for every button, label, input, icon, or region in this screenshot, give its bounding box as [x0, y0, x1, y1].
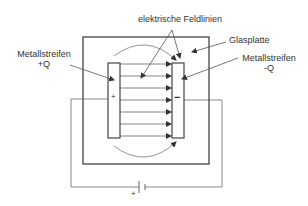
right-strip-label: Metallstreifen -Q: [240, 53, 298, 73]
fringe-field-lines: [114, 45, 176, 157]
field-lines-label: elektrische Feldlinien: [138, 14, 222, 24]
left-strip-label: Metallstreifen +Q: [16, 49, 72, 69]
minus-sign-icon: −: [174, 92, 180, 102]
battery-icon: [139, 181, 145, 193]
glass-plate-label: Glasplatte: [229, 35, 270, 45]
left-strip-charge: +Q: [16, 59, 72, 69]
right-strip-name: Metallstreifen: [240, 53, 298, 63]
battery-plus-icon: +: [131, 189, 136, 199]
plus-sign-icon: +: [111, 92, 116, 102]
capacitor-diagram: [0, 0, 308, 206]
field-lines: [120, 64, 171, 136]
left-strip-name: Metallstreifen: [16, 49, 72, 59]
right-strip-charge: -Q: [240, 63, 298, 73]
